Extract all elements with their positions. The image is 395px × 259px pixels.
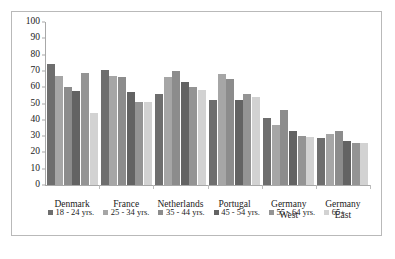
bar: [90, 113, 98, 185]
x-separator-tick: [370, 185, 371, 189]
legend-item[interactable]: 65+: [324, 208, 345, 217]
y-tick-mark-60: [42, 87, 45, 88]
bar: [289, 131, 297, 185]
bar: [272, 125, 280, 185]
chart-figure: 0102030405060708090100 DenmarkFranceNeth…: [11, 11, 382, 236]
legend-item[interactable]: 25 - 34 yrs.: [103, 208, 149, 217]
legend-swatch-icon: [158, 210, 163, 215]
bar: [181, 82, 189, 185]
x-separator-tick: [208, 185, 209, 189]
bar: [360, 143, 368, 185]
bar-group: [263, 22, 314, 185]
legend-swatch-icon: [269, 210, 274, 215]
y-tick-mark-20: [42, 152, 45, 153]
y-tick-mark-100: [42, 22, 45, 23]
y-tick-mark-70: [42, 70, 45, 71]
bar: [72, 91, 80, 185]
bar-group: [101, 22, 152, 185]
legend-label: 55 - 64 yrs.: [276, 208, 315, 217]
x-separator-tick: [316, 185, 317, 189]
bar: [144, 102, 152, 185]
y-tick-mark-30: [42, 136, 45, 137]
y-tick-mark-80: [42, 54, 45, 55]
bar: [235, 100, 243, 185]
bar: [127, 92, 135, 185]
bar: [81, 73, 89, 185]
x-separator-tick: [153, 185, 154, 189]
legend-label: 18 - 24 yrs.: [56, 208, 95, 217]
y-tick-label-0: 0: [35, 180, 40, 190]
y-tick-label-40: 40: [31, 115, 41, 125]
plot-area: 0102030405060708090100 DenmarkFranceNeth…: [45, 22, 370, 185]
chart-legend: 18 - 24 yrs.25 - 34 yrs.35 - 44 yrs.45 -…: [12, 208, 381, 217]
bar: [317, 138, 325, 185]
bar: [64, 87, 72, 185]
bar-group: [155, 22, 206, 185]
bar: [135, 102, 143, 185]
bar: [298, 136, 306, 185]
y-tick-mark-0: [42, 185, 45, 186]
x-separator-tick: [262, 185, 263, 189]
y-tick-label-30: 30: [31, 131, 41, 141]
bar: [172, 71, 180, 185]
y-tick-label-10: 10: [31, 164, 41, 174]
x-separator-tick: [99, 185, 100, 189]
bar: [118, 77, 126, 185]
bar-group: [47, 22, 98, 185]
legend-label: 35 - 44 yrs.: [166, 208, 205, 217]
bar: [335, 131, 343, 185]
bar-group: [317, 22, 368, 185]
bar-group: [209, 22, 260, 185]
bar: [109, 76, 117, 185]
bar: [280, 110, 288, 185]
legend-item[interactable]: 45 - 54 yrs.: [214, 208, 260, 217]
y-tick-mark-90: [42, 38, 45, 39]
y-tick-label-60: 60: [31, 82, 41, 92]
bar: [47, 64, 55, 185]
bar: [326, 134, 334, 185]
y-tick-label-20: 20: [31, 148, 41, 158]
legend-label: 65+: [332, 208, 345, 217]
y-tick-mark-10: [42, 168, 45, 169]
legend-swatch-icon: [324, 210, 329, 215]
y-tick-label-80: 80: [31, 50, 41, 60]
bar: [198, 90, 206, 185]
bar: [189, 87, 197, 185]
bar: [55, 76, 63, 185]
y-tick-label-50: 50: [31, 99, 41, 109]
bar: [263, 118, 271, 185]
y-tick-label-100: 100: [26, 17, 40, 27]
legend-swatch-icon: [48, 210, 53, 215]
bar: [155, 94, 163, 185]
bar: [218, 74, 226, 185]
y-tick-mark-40: [42, 119, 45, 120]
bar: [209, 100, 217, 185]
y-tick-mark-50: [42, 103, 45, 104]
y-tick-label-70: 70: [31, 66, 41, 76]
legend-swatch-icon: [103, 210, 108, 215]
bar: [164, 77, 172, 185]
bar: [306, 137, 314, 185]
legend-item[interactable]: 55 - 64 yrs.: [269, 208, 315, 217]
bar: [343, 141, 351, 185]
legend-item[interactable]: 18 - 24 yrs.: [48, 208, 94, 217]
legend-label: 25 - 34 yrs.: [111, 208, 150, 217]
bar: [243, 94, 251, 185]
bar: [352, 143, 360, 185]
bar: [101, 70, 109, 185]
legend-swatch-icon: [214, 210, 219, 215]
legend-label: 45 - 54 yrs.: [221, 208, 260, 217]
bar: [226, 79, 234, 185]
legend-item[interactable]: 35 - 44 yrs.: [158, 208, 204, 217]
bar: [252, 97, 260, 185]
y-tick-label-90: 90: [31, 34, 41, 44]
